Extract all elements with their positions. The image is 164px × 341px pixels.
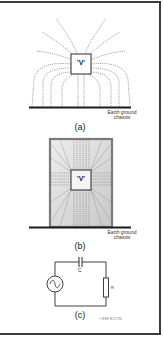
- figure-svg: [0, 0, 164, 341]
- capacitor-label: C: [78, 267, 82, 273]
- panel-a-ground-label-line2: chassis: [97, 115, 147, 120]
- resistor-label: R: [111, 285, 114, 290]
- copyright-notice: ©IEEE RC/ITM: [99, 317, 122, 321]
- panel-a-label: (a): [65, 122, 95, 132]
- capacitor-icon: [79, 257, 82, 267]
- panel-a-source-label: 'V': [71, 59, 91, 66]
- panel-b-label: (b): [65, 241, 95, 251]
- resistor-icon: [104, 278, 109, 297]
- panel-b-ground-label-line2: chassis: [97, 235, 147, 240]
- panel-c-label: (c): [65, 310, 95, 320]
- ac-source-icon: [47, 276, 63, 292]
- panel-b-source-label: 'V': [71, 175, 91, 182]
